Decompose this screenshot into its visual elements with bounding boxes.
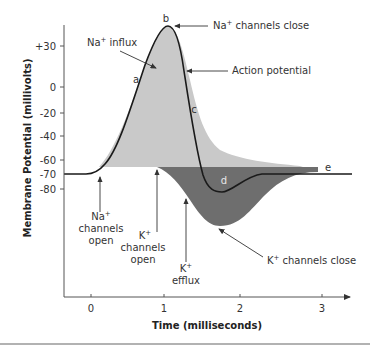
y-tick-0: 0 <box>50 82 56 93</box>
label-b: b <box>163 13 169 24</box>
y-ticks <box>60 46 64 189</box>
label-d: d <box>221 175 227 186</box>
x-tick-2: 2 <box>237 303 243 314</box>
na-open-label-line2: channels <box>79 223 124 234</box>
na-influx-label: Na+influx <box>87 36 137 48</box>
k-open-label-line2: channels <box>121 242 166 253</box>
label-e: e <box>325 162 331 173</box>
na-close-label: Na+channels close <box>213 19 309 31</box>
k-open-label-line1: K+ <box>139 229 152 241</box>
k-efflux-region <box>157 167 318 226</box>
label-c: c <box>191 104 197 115</box>
action-potential-diagram: +30 0 -20 -40 -60 -70 -80 0 1 2 3 Time (… <box>0 0 370 350</box>
x-tick-labels: 0 1 2 3 <box>88 303 325 314</box>
x-tick-3: 3 <box>319 303 325 314</box>
k-open-label-line3: open <box>131 254 156 265</box>
action-potential-label: Action potential <box>232 65 311 76</box>
na-open-label-line3: open <box>89 235 114 246</box>
y-tick-neg70: -70 <box>40 169 56 180</box>
x-tick-1: 1 <box>161 303 167 314</box>
y-tick-30: +30 <box>35 41 56 52</box>
y-tick-neg20: -20 <box>40 108 56 119</box>
k-efflux-label-line1: K+ <box>180 262 193 274</box>
k-close-label: K+channels close <box>267 254 356 266</box>
y-axis-title: Membrane Potential (millivolts) <box>22 59 33 238</box>
x-axis-title: Time (milliseconds) <box>152 320 262 331</box>
y-tick-neg80: -80 <box>40 184 56 195</box>
y-tick-labels: +30 0 -20 -40 -60 -70 -80 <box>35 41 56 195</box>
k-close-arrow <box>219 229 263 257</box>
label-a: a <box>133 74 139 85</box>
y-tick-neg40: -40 <box>40 131 56 142</box>
k-efflux-label-line2: efflux <box>172 275 200 286</box>
x-tick-0: 0 <box>88 303 94 314</box>
y-tick-neg60: -60 <box>40 155 56 166</box>
na-open-label-line1: Na+ <box>91 210 111 222</box>
